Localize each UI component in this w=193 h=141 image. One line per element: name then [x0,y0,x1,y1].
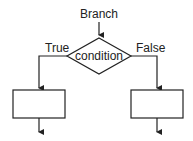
branch-title: Branch [80,7,118,21]
true-arrow [39,56,67,88]
true-label: True [45,41,70,55]
true-process-box [13,90,65,118]
decision-label: condition [75,49,123,63]
false-process-box [131,90,183,118]
flowchart: Branch condition True False [0,0,193,141]
false-label: False [136,41,166,55]
false-arrow [131,56,157,88]
